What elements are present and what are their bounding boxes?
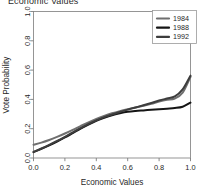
x-tick-label: 0.8 <box>154 163 164 172</box>
legend-label-1988[interactable]: 1988 <box>173 23 189 32</box>
y-tick-label: 0.2 <box>23 124 32 134</box>
data-series-group <box>34 76 191 152</box>
chart-figure: Economic Values 0.00.20.40.60.81.0 0.00.… <box>0 0 204 192</box>
x-tick-label: 0.6 <box>123 163 133 172</box>
y-tick-label: 0.4 <box>23 94 32 104</box>
line-chart-plot: 0.00.20.40.60.81.0 0.00.20.40.60.81.0 Ec… <box>0 0 204 192</box>
legend-label-1984[interactable]: 1984 <box>173 14 189 23</box>
x-axis-title: Economic Values <box>81 178 144 187</box>
x-axis-ticks: 0.00.20.40.60.81.0 <box>28 158 195 172</box>
x-tick-label: 1.0 <box>185 163 195 172</box>
y-axis-title: Vote Probability <box>2 56 11 114</box>
x-tick-label: 0.4 <box>91 163 101 172</box>
chart-legend[interactable]: 198419881992 <box>153 11 197 44</box>
data-series-1984 <box>34 77 191 145</box>
y-axis-ticks: 0.00.20.40.60.81.0 <box>23 6 33 163</box>
x-tick-label: 0.2 <box>60 163 70 172</box>
y-tick-label: 0.6 <box>23 65 32 75</box>
data-series-1992 <box>34 76 191 152</box>
data-series-1988 <box>34 103 191 153</box>
y-tick-label: 1.0 <box>23 6 32 16</box>
y-tick-label: 0.8 <box>23 36 32 46</box>
legend-label-1992[interactable]: 1992 <box>173 32 189 41</box>
x-tick-label: 0.0 <box>28 163 38 172</box>
